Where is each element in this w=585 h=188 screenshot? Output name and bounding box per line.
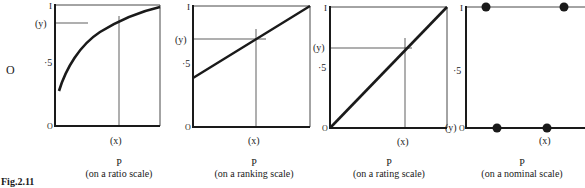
- tick-half: ·5: [453, 65, 461, 76]
- tick-one: I: [49, 1, 52, 11]
- x-axis-sublabel: (on a ranking scale): [214, 168, 293, 180]
- tick-half: ·5: [318, 62, 326, 73]
- tick-one: I: [460, 3, 463, 13]
- data-point: [482, 3, 491, 12]
- x-marker-label: (x): [539, 135, 551, 147]
- tick-one: I: [187, 2, 190, 12]
- panel-ranking-scale: I (y) ·5 O (x) P (on a ranking scale): [175, 2, 310, 180]
- x-axis-label: P: [386, 157, 392, 168]
- x-axis-sublabel: (on a nominal scale): [481, 168, 562, 180]
- panel-nominal-scale: I ·5 (y) O (x) P (on a nominal scale): [445, 3, 585, 181]
- y-marker-label: (y): [445, 122, 457, 134]
- figure-label: Fig.2.11: [1, 176, 34, 187]
- ranking-line: [193, 6, 310, 78]
- y-marker-label: (y): [175, 34, 187, 46]
- x-marker-label: (x): [248, 135, 260, 147]
- x-axis-sublabel: (on a rating scale): [353, 168, 425, 180]
- tick-zero: O: [47, 122, 53, 131]
- x-axis-label: P: [116, 157, 122, 168]
- data-point: [493, 124, 502, 133]
- y-marker-label: (y): [313, 42, 325, 54]
- x-marker-label: (x): [397, 136, 409, 148]
- panel-rating-scale: I (y) ·5 O (x) P (on a rating scale): [313, 3, 447, 180]
- y-marker-label: (y): [35, 18, 47, 30]
- x-marker-label: (x): [110, 135, 122, 147]
- x-axis-label: P: [519, 157, 525, 168]
- tick-zero: O: [185, 123, 191, 132]
- rating-line: [330, 7, 447, 128]
- y-axis-label: O: [6, 63, 15, 77]
- tick-half: ·5: [182, 58, 190, 69]
- tick-zero: O: [459, 124, 465, 133]
- tick-one: I: [324, 3, 327, 13]
- tick-zero: O: [322, 124, 328, 133]
- data-point: [543, 124, 552, 133]
- data-point: [560, 3, 569, 12]
- tick-half: ·5: [44, 57, 52, 68]
- x-axis-sublabel: (on a ratio scale): [86, 168, 153, 180]
- ratio-curve: [59, 7, 160, 91]
- panel-ratio-scale: I (y) ·5 O (x) P (on a ratio scale): [35, 1, 160, 180]
- figure-canvas: O I (y) ·5 O (x) P (on a ratio scale) I …: [0, 0, 585, 188]
- x-axis-label: P: [251, 157, 257, 168]
